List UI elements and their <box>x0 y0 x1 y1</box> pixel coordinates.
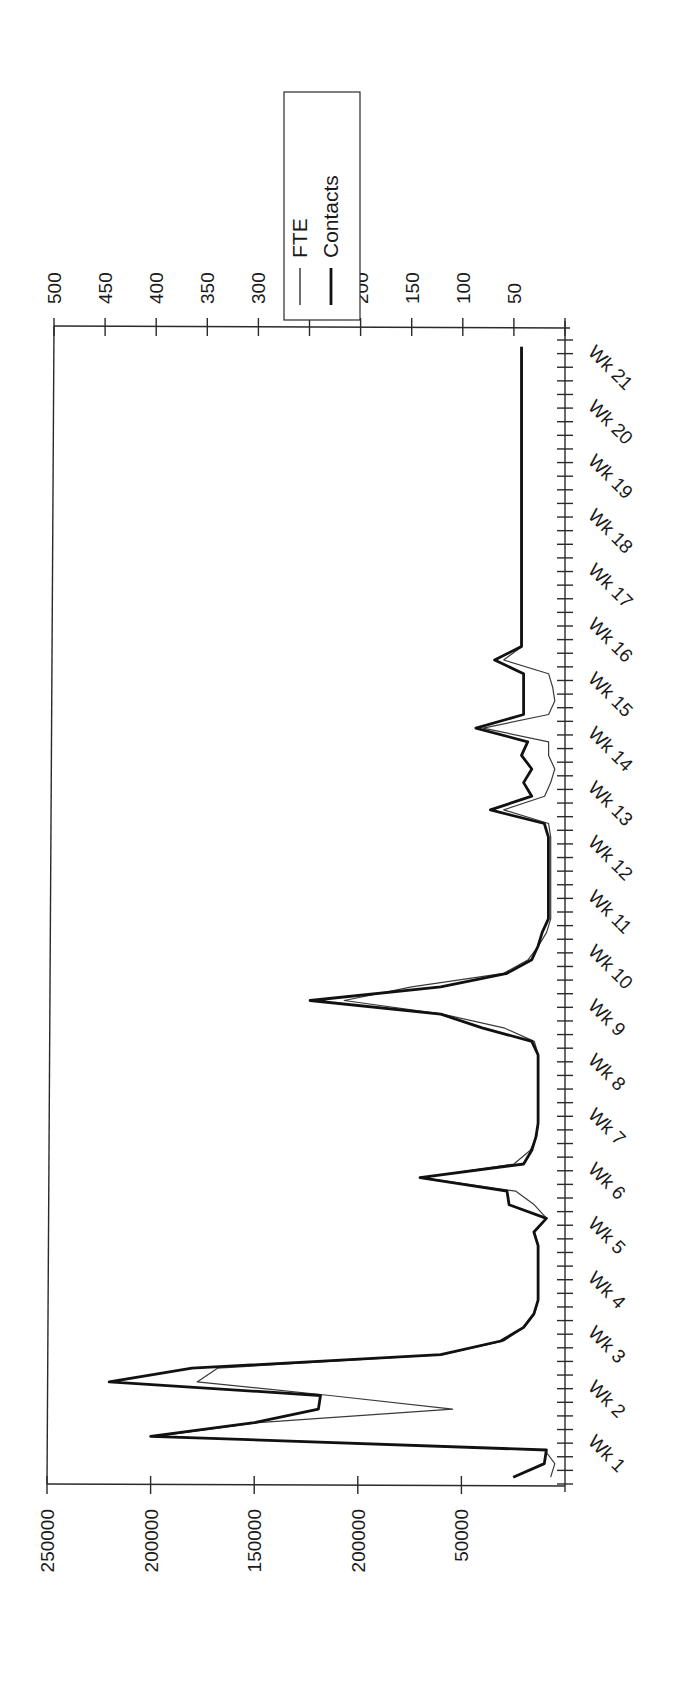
fte-tick-label: 450 <box>95 272 116 304</box>
week-label: Wk 20 <box>584 396 637 449</box>
plot-frame <box>47 321 570 1492</box>
week-label: Wk 14 <box>584 723 637 776</box>
contacts-axis-line <box>47 1484 565 1486</box>
week-label: Wk 8 <box>584 1049 629 1094</box>
week-label: Wk 21 <box>584 341 637 394</box>
fte-tick-label: 350 <box>197 272 218 304</box>
week-label: Wk 2 <box>584 1376 629 1421</box>
week-label: Wk 1 <box>584 1431 629 1476</box>
week-label: Wk 11 <box>584 886 636 938</box>
week-label: Wk 12 <box>584 832 637 885</box>
left-frame-line <box>47 326 54 1484</box>
fte-tick-label: 100 <box>453 272 474 304</box>
week-label: Wk 3 <box>584 1322 629 1367</box>
week-label: Wk 15 <box>584 668 637 721</box>
chart: 25000020000015000020000050000 5004504003… <box>0 0 699 1681</box>
week-label: Wk 17 <box>584 559 637 612</box>
week-label: Wk 9 <box>584 995 629 1040</box>
week-label: Wk 7 <box>584 1104 629 1149</box>
line-chart-canvas: 25000020000015000020000050000 5004504003… <box>0 0 699 1681</box>
week-label: Wk 5 <box>584 1213 629 1258</box>
fte-line <box>156 347 555 1477</box>
week-label: Wk 4 <box>584 1267 630 1313</box>
contacts-line <box>109 347 548 1477</box>
fte-tick-label: 500 <box>44 272 65 304</box>
week-label: Wk 18 <box>584 505 637 558</box>
legend-label-fte: FTE <box>288 218 311 258</box>
week-label: Wk 16 <box>584 614 637 667</box>
fte-axis-line <box>54 326 570 328</box>
legend-label-contacts: Contacts <box>319 175 342 258</box>
week-label: Wk 6 <box>584 1158 629 1203</box>
fte-tick-label: 50 <box>504 283 525 304</box>
contacts-tick-label: 150000 <box>244 1509 265 1572</box>
contacts-tick-label: 200000 <box>348 1509 369 1572</box>
contacts-tick-label: 200000 <box>141 1509 162 1572</box>
contacts-tick-label: 50000 <box>451 1509 472 1562</box>
contacts-axis: 25000020000015000020000050000 <box>37 1476 472 1572</box>
week-axis: Wk 1Wk 2Wk 3Wk 4Wk 5Wk 6Wk 7Wk 8Wk 9Wk 1… <box>557 340 637 1484</box>
week-label: Wk 13 <box>584 777 637 830</box>
legend: FTEContacts <box>284 92 360 320</box>
fte-tick-label: 300 <box>248 272 269 304</box>
week-label: Wk 19 <box>584 450 637 503</box>
week-label: Wk 10 <box>584 940 637 993</box>
contacts-tick-label: 250000 <box>37 1509 58 1572</box>
fte-tick-label: 400 <box>146 272 167 304</box>
fte-tick-label: 150 <box>402 272 423 304</box>
series-group <box>109 347 555 1477</box>
